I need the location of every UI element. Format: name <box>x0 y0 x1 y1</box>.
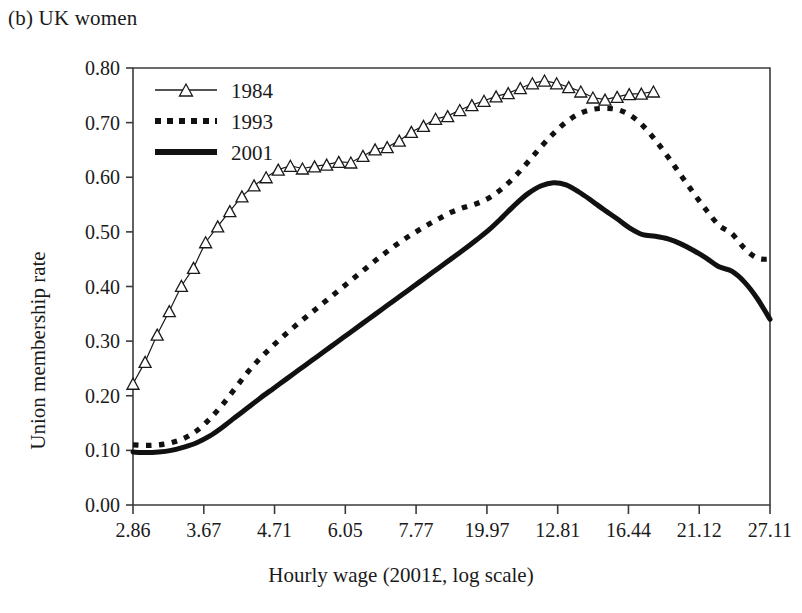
x-tick-label: 4.71 <box>257 519 292 541</box>
series-marker-1984 <box>272 164 284 175</box>
legend-label-1993: 1993 <box>231 110 273 134</box>
x-tick-label: 7.77 <box>399 519 434 541</box>
y-tick-label: 0.10 <box>85 439 120 461</box>
series-marker-1984 <box>284 160 296 171</box>
legend-label-2001: 2001 <box>231 141 273 165</box>
series-marker-1984 <box>587 92 599 103</box>
series-marker-1984 <box>369 144 381 155</box>
series-marker-1984 <box>151 329 163 340</box>
series-marker-1984 <box>188 262 200 273</box>
series-marker-1984 <box>296 163 308 174</box>
y-tick-label: 0.40 <box>85 276 120 298</box>
series-marker-1984 <box>647 86 659 97</box>
series-marker-1984 <box>454 105 466 116</box>
series-marker-1984 <box>563 82 575 93</box>
y-tick-label: 0.70 <box>85 112 120 134</box>
plot-area: 0.000.100.200.300.400.500.600.700.802.86… <box>0 0 802 613</box>
series-marker-1984 <box>611 91 623 102</box>
series-marker-1984 <box>127 378 139 389</box>
series-line-1993 <box>133 108 770 445</box>
y-tick-label: 0.60 <box>85 166 120 188</box>
series-marker-1984 <box>417 120 429 131</box>
series-marker-1984 <box>551 78 563 89</box>
y-tick-label: 0.00 <box>85 494 120 516</box>
x-tick-label: 6.05 <box>328 519 363 541</box>
series-marker-1984 <box>490 91 502 102</box>
x-tick-label: 21.12 <box>677 519 722 541</box>
plot-frame <box>133 68 770 505</box>
legend-label-1984: 1984 <box>231 79 274 103</box>
y-tick-label: 0.30 <box>85 330 120 352</box>
x-tick-label: 12.81 <box>535 519 580 541</box>
series-marker-1984 <box>514 83 526 94</box>
y-tick-label: 0.20 <box>85 385 120 407</box>
x-tick-label: 2.86 <box>116 519 151 541</box>
series-marker-1984 <box>442 111 454 122</box>
series-line-2001 <box>133 183 770 453</box>
x-axis-label: Hourly wage (2001£, log scale) <box>0 563 802 588</box>
series-marker-1984 <box>502 88 514 99</box>
series-marker-1984 <box>393 135 405 146</box>
series-marker-1984 <box>139 356 151 367</box>
chart-figure: (b) UK women Union membership rate 0.000… <box>0 0 802 613</box>
series-marker-1984 <box>224 206 236 217</box>
series-marker-1984 <box>466 100 478 111</box>
series-marker-1984 <box>175 280 187 291</box>
series-marker-1984 <box>405 126 417 137</box>
series-marker-1984 <box>430 113 442 124</box>
series-marker-1984 <box>599 94 611 105</box>
series-marker-1984 <box>478 95 490 106</box>
series-marker-1984 <box>539 75 551 86</box>
x-tick-label: 3.67 <box>186 519 221 541</box>
series-marker-1984 <box>212 221 224 232</box>
y-tick-label: 0.50 <box>85 221 120 243</box>
series-marker-1984 <box>200 237 212 248</box>
series-marker-1984 <box>260 172 272 183</box>
x-tick-label: 16.44 <box>606 519 651 541</box>
series-marker-1984 <box>575 86 587 97</box>
y-tick-label: 0.80 <box>85 57 120 79</box>
series-marker-1984 <box>526 78 538 89</box>
x-tick-label: 19.97 <box>464 519 509 541</box>
x-tick-label: 27.11 <box>748 519 792 541</box>
series-marker-1984 <box>381 142 393 153</box>
series-marker-1984 <box>248 180 260 191</box>
series-marker-1984 <box>163 306 175 317</box>
series-marker-1984 <box>357 150 369 161</box>
